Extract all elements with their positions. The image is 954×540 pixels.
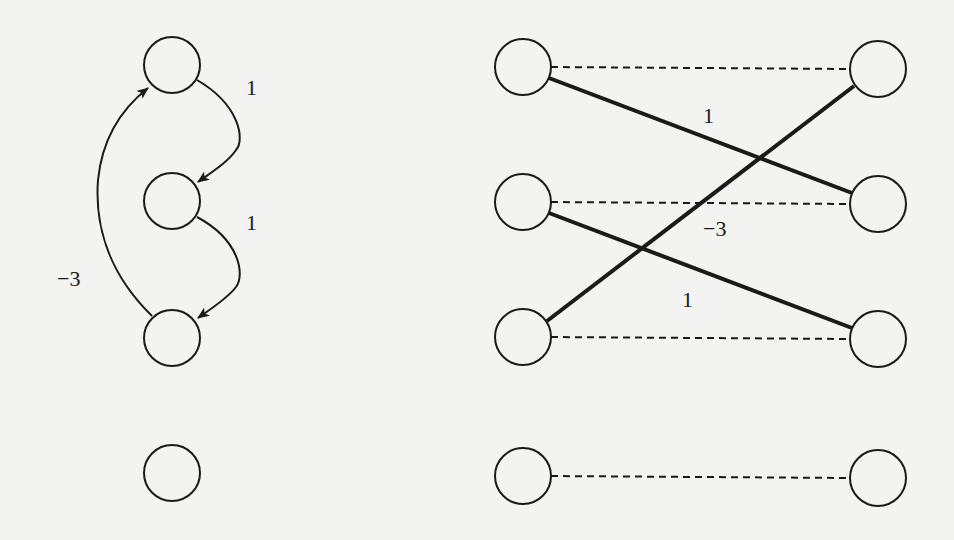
dashed-edge-u3-v3 [551, 337, 850, 339]
solid-edge-u2-v3 [549, 213, 852, 328]
node-a4 [144, 445, 200, 501]
weight-label-a3-a1: −3 [57, 266, 80, 291]
node-a3 [144, 310, 200, 366]
edge-a2-a3 [197, 217, 240, 318]
node-u1 [495, 39, 551, 95]
weight-label-u1-v2: 1 [703, 103, 714, 128]
node-a1 [144, 37, 200, 93]
node-v4 [850, 450, 906, 506]
weight-label-a1-a2: 1 [246, 75, 257, 100]
node-v3 [850, 311, 906, 367]
diagram-canvas: 1 1 −3 1 −3 1 [0, 0, 954, 540]
weight-label-a2-a3: 1 [246, 210, 257, 235]
solid-edge-u1-v2 [549, 78, 852, 193]
node-a2 [144, 173, 200, 229]
dashed-edge-u4-v4 [551, 476, 850, 478]
right-graph: 1 −3 1 [495, 39, 906, 506]
node-u4 [495, 448, 551, 504]
left-graph: 1 1 −3 [57, 37, 257, 501]
dashed-edge-u1-v1 [551, 67, 850, 69]
edge-a1-a2 [197, 80, 240, 182]
node-v1 [850, 41, 906, 97]
weight-label-u2-v3: 1 [682, 287, 693, 312]
node-u3 [495, 309, 551, 365]
weight-label-u3-v1: −3 [703, 216, 726, 241]
node-u2 [495, 174, 551, 230]
node-v2 [850, 176, 906, 232]
